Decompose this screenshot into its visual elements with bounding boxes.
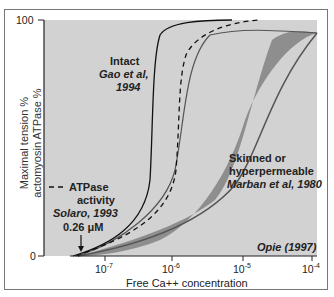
intact-label: Intact bbox=[110, 55, 139, 67]
atpase-label: ATPase bbox=[69, 181, 109, 193]
y-axis-label-line1: Maximal tension % bbox=[18, 68, 31, 218]
x-tick-label-1e-5: 10-5 bbox=[233, 262, 251, 275]
y-tick-label-100: 100 bbox=[16, 14, 34, 26]
activity-label: activity bbox=[77, 194, 115, 206]
x-axis-label: Free Ca++ concentration bbox=[126, 277, 248, 289]
marban-label: Marban et al, 1980 bbox=[227, 178, 322, 190]
x-tick-label-1e-4: 10-4 bbox=[302, 262, 320, 275]
y-axis-label: Maximal tension % actomyosin ATPase % bbox=[18, 68, 44, 218]
skinned-label: Skinned or bbox=[229, 152, 286, 164]
x-tick-label-1e-7: 10-7 bbox=[95, 262, 113, 275]
solaro-label: Solaro, 1993 bbox=[53, 207, 118, 219]
y-axis-label-line2: actomyosin ATPase % bbox=[31, 68, 44, 218]
gao-label: Gao et al, bbox=[99, 68, 149, 80]
credit-label: Opie (1997) bbox=[257, 241, 316, 253]
y-tick-label-0: 0 bbox=[30, 250, 36, 262]
hyperpermeable-label: hyperpermeable bbox=[229, 165, 314, 177]
threshold-label: 0.26 μM bbox=[63, 221, 103, 233]
gao-year-label: 1994 bbox=[116, 81, 140, 93]
x-tick-label-1e-6: 10-6 bbox=[162, 262, 180, 275]
